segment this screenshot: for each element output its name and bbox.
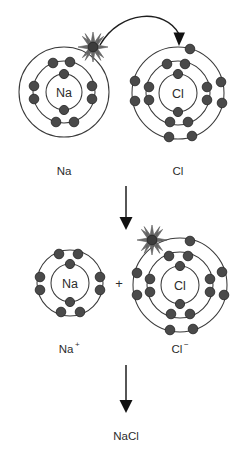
electron xyxy=(56,307,66,317)
electron xyxy=(59,69,68,78)
electron xyxy=(175,299,184,308)
electron xyxy=(65,297,74,306)
electron xyxy=(183,117,193,127)
electron xyxy=(69,117,79,127)
electron xyxy=(216,77,226,87)
chlorine-atom-group: Cl xyxy=(130,44,227,142)
electron xyxy=(175,261,184,270)
reaction-arrow-1-head xyxy=(120,217,133,230)
electron xyxy=(183,251,193,261)
sodium-ion-charge: + xyxy=(75,340,80,349)
chloride-ion-charge: − xyxy=(184,340,189,349)
electron xyxy=(88,42,98,52)
electron xyxy=(180,59,190,69)
electron xyxy=(29,81,39,91)
electron xyxy=(87,81,97,91)
electron xyxy=(35,285,45,295)
electron xyxy=(217,98,227,108)
electron xyxy=(185,236,195,246)
electron xyxy=(164,132,174,142)
product-label: NaCl xyxy=(113,430,139,442)
ionic-bonding-diagram: Na xyxy=(0,0,250,461)
sodium-atom-group: Na xyxy=(19,32,109,137)
chloride-ion-group: Cl xyxy=(132,225,229,335)
electron xyxy=(165,325,175,335)
electron xyxy=(173,69,182,78)
electron xyxy=(75,307,85,317)
electron xyxy=(145,287,155,297)
electron xyxy=(165,117,175,127)
electron xyxy=(185,309,195,319)
cl-symbol: Cl xyxy=(172,87,184,101)
reaction-arrow-2-head xyxy=(120,400,133,413)
electron xyxy=(130,76,140,86)
sodium-ion-label: Na + xyxy=(59,340,80,355)
electron xyxy=(95,272,105,282)
electron xyxy=(29,94,39,104)
sodium-ion-group: Na xyxy=(35,249,105,317)
na-symbol: Na xyxy=(56,86,72,100)
electron xyxy=(187,131,197,141)
electron-transfer-arrow xyxy=(100,16,185,46)
electron xyxy=(185,44,195,54)
electron xyxy=(73,249,83,259)
electron xyxy=(147,235,157,245)
electron xyxy=(144,82,154,92)
chloride-ion-label-text: Cl xyxy=(172,343,183,355)
electron xyxy=(130,96,140,106)
transfer-arrow-head xyxy=(174,33,186,47)
electron xyxy=(48,58,58,68)
na-ion-symbol: Na xyxy=(62,277,78,291)
electron xyxy=(173,107,182,116)
transfer-arrow-path xyxy=(100,16,179,45)
electron xyxy=(219,290,229,300)
electron xyxy=(166,309,176,319)
electron xyxy=(202,82,212,92)
diagram-canvas: Na xyxy=(0,0,250,461)
electron xyxy=(51,117,61,127)
plus-sign: + xyxy=(115,276,123,291)
sodium-ion-label-text: Na xyxy=(59,343,74,355)
electron xyxy=(132,268,142,278)
valence-electron-burst xyxy=(78,32,108,62)
electron xyxy=(65,259,74,268)
sodium-atom-label: Na xyxy=(57,165,72,177)
chlorine-atom-label: Cl xyxy=(173,165,184,177)
electron xyxy=(35,272,45,282)
electron xyxy=(205,274,215,284)
gained-electron-burst xyxy=(137,225,167,255)
electron xyxy=(54,249,64,259)
electron xyxy=(162,59,172,69)
electron xyxy=(144,95,154,105)
electron xyxy=(132,290,142,300)
electron xyxy=(65,57,75,67)
electron xyxy=(164,251,174,261)
cl-ion-symbol: Cl xyxy=(174,279,186,293)
electron xyxy=(202,95,212,105)
electron xyxy=(59,105,68,114)
chloride-ion-label: Cl − xyxy=(172,340,189,355)
electron xyxy=(205,287,215,297)
electron xyxy=(217,267,227,277)
electron xyxy=(145,274,155,284)
electron xyxy=(87,94,97,104)
reaction-arrow-2 xyxy=(120,365,133,413)
electron xyxy=(188,324,198,334)
reaction-arrow-1 xyxy=(120,186,133,230)
electron xyxy=(95,285,105,295)
